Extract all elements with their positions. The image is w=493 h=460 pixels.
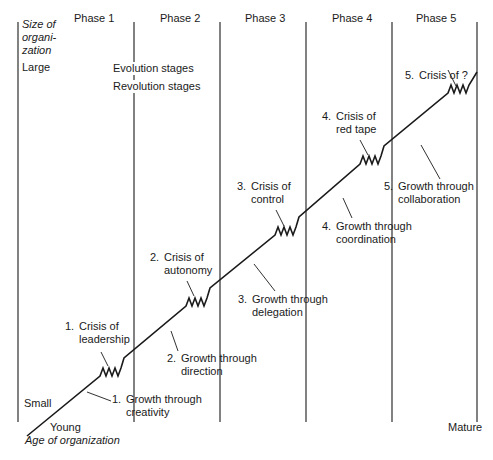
growth-line [27,72,477,436]
crisis-label-4: 4.Crisis of red tape [322,110,376,136]
pointer-growth-3 [254,264,275,291]
growth-label-1: 1.Growth through creativity [112,393,202,419]
phase-header-1: Phase 1 [74,12,114,25]
crisis-label-1: 1.Crisis of leadership [65,320,130,346]
phase-header-5: Phase 5 [416,12,456,25]
growth-label-2: 2.Growth through direction [167,352,257,378]
pointer-crisis-4 [360,140,368,155]
y-axis-label-line3: zation [22,44,51,57]
phase-header-2: Phase 2 [160,12,200,25]
pointer-crisis-2 [187,281,194,296]
legend-evolution-stages: Evolution stages [112,62,195,75]
y-axis-low-label: Small [24,397,52,410]
y-axis-label-line1: Size of [22,18,56,31]
legend-revolution-stages: Revolution stages [112,80,201,93]
y-axis-label-line2: organi- [22,31,56,44]
pointer-growth-2 [171,331,178,351]
growth-label-5: 5.Growth through collaboration [384,180,474,206]
x-axis-label: Age of organization [25,434,120,447]
y-axis-high-label: Large [22,61,50,74]
greiner-growth-diagram: Phase 1 Phase 2 Phase 3 Phase 4 Phase 5 … [0,0,493,460]
x-axis-low-label: Young [50,421,81,434]
growth-label-4: 4.Growth through coordination [322,220,412,246]
pointer-growth-4 [343,198,352,218]
pointer-crisis-3 [276,210,284,226]
pointer-crisis-1 [101,352,108,366]
crisis-label-5: 5.Crisis of ? [405,69,468,82]
phase-header-3: Phase 3 [245,12,285,25]
crisis-label-2: 2.Crisis of autonomy [150,251,212,277]
growth-label-3: 3.Growth through delegation [238,293,328,319]
pointer-growth-5 [421,145,440,179]
phase-header-4: Phase 4 [332,12,372,25]
crisis-label-3: 3.Crisis of control [237,180,291,206]
pointer-growth-1 [87,392,111,401]
x-axis-high-label: Mature [448,421,482,434]
